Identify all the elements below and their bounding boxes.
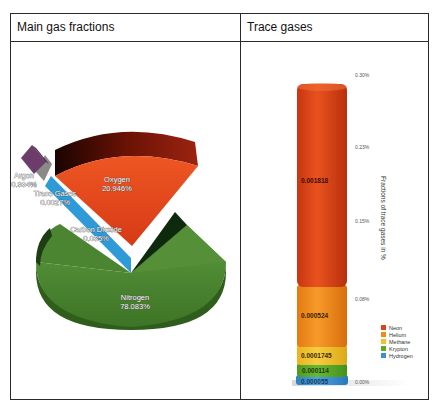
label-oxygen-value: 20.946% [102, 184, 132, 193]
bar-segment-helium: 0.000524 [297, 285, 347, 347]
tick-0-08: 0.08% [355, 296, 370, 302]
header-trace-gases: Trace gases [247, 20, 313, 34]
value-neon: 0.001818 [301, 177, 328, 184]
label-co2-value: 0.035% [83, 234, 109, 243]
legend-label-krypton: Krypton [389, 346, 408, 352]
y-axis-ticks: 0.30% 0.23% 0.15% 0.08% 0.00% [355, 72, 370, 385]
label-oxygen-name: Oxygen [104, 175, 130, 184]
legend-item-methane: Methane [381, 339, 410, 345]
label-argon-name: Argon [14, 171, 34, 180]
legend-item-helium: Helium [381, 332, 407, 338]
tick-0-23: 0.23% [355, 144, 370, 150]
label-argon-value: 0.934% [11, 180, 37, 189]
label-co2-name: Carbon Dioxide [70, 225, 122, 234]
label-trace-value: 0.0027% [40, 198, 70, 207]
legend: Neon Helium Methane Krypton Hydrogen [381, 325, 413, 359]
legend-label-methane: Methane [389, 339, 410, 345]
legend-label-helium: Helium [389, 332, 407, 338]
legend-label-neon: Neon [389, 325, 402, 331]
legend-item-krypton: Krypton [381, 346, 408, 352]
tick-0-15: 0.15% [355, 218, 370, 224]
bar-segment-methane: 0.0001745 [297, 345, 347, 365]
legend-item-neon: Neon [381, 325, 402, 331]
label-nitrogen-name: Nitrogen [121, 293, 149, 302]
value-hydrogen: 0.000055 [301, 378, 328, 385]
y-axis-label: Fractions of trace gases in % [379, 176, 387, 260]
tick-0-00: 0.00% [355, 379, 370, 385]
legend-label-hydrogen: Hydrogen [389, 353, 413, 359]
main-gas-pie-chart: Oxygen 20.946% Carbon Dioxide 0.035% Tra… [11, 41, 239, 399]
bar-segment-neon: 0.001818 [297, 83, 347, 287]
trace-gases-bar-chart: 0.000055 0.000114 0.0001745 0.000524 0.0… [240, 41, 428, 399]
label-trace-name: Trace Gases [34, 189, 77, 198]
label-nitrogen-value: 78.083% [120, 302, 150, 311]
value-krypton: 0.000114 [302, 367, 329, 374]
tick-0-30: 0.30% [355, 72, 370, 78]
value-helium: 0.000524 [301, 312, 328, 319]
legend-item-hydrogen: Hydrogen [381, 353, 413, 359]
bar-segment-krypton: 0.000114 [297, 363, 347, 377]
header-main-gas-fractions: Main gas fractions [17, 20, 114, 34]
value-methane: 0.0001745 [301, 352, 332, 359]
